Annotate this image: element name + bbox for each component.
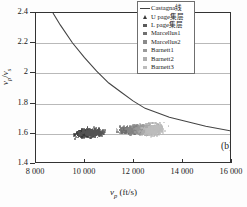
y-axis-tick [30, 72, 35, 73]
x-axis-label: 8 000 [13, 167, 57, 176]
x-axis-tick [133, 159, 134, 163]
legend-item[interactable]: Castagna线 [140, 4, 191, 12]
legend-item[interactable]: U page集层 [140, 12, 191, 20]
legend-item[interactable]: Marcellus1 [140, 29, 191, 37]
y-axis-label: 2.2 [0, 37, 28, 45]
x-axis-label: 16 000 [209, 167, 247, 176]
legend-label: Barnett1 [151, 46, 174, 54]
y-axis-label: 2.4 [0, 7, 28, 15]
x-axis-title-unit: (ft/s) [117, 187, 137, 197]
x-axis-tick [231, 159, 232, 163]
y-axis-label: 1.4 [0, 158, 28, 166]
y-axis-tick [30, 12, 35, 13]
legend-marker-square-icon [140, 21, 151, 29]
y-axis-tick [30, 103, 35, 104]
legend-item[interactable]: L page集层 [140, 21, 191, 29]
x-axis-label: 10 000 [62, 167, 106, 176]
y-axis-tick [30, 163, 35, 164]
legend-label: Barnett3 [151, 63, 174, 71]
legend-marker-square-icon [140, 46, 151, 54]
legend-label: Marcellus2 [151, 38, 181, 46]
legend-marker-square-icon [140, 63, 151, 71]
legend-label: U page集层 [151, 13, 184, 21]
plot-area: (b) [35, 12, 231, 163]
x-axis-tick [84, 159, 85, 163]
castagna-curve [36, 13, 230, 162]
y-axis-tick [30, 42, 35, 43]
y-axis-label: 1.6 [0, 128, 28, 136]
x-axis-label: 12 000 [111, 167, 155, 176]
legend-label: Castagna线 [151, 4, 182, 12]
legend-item[interactable]: Marcellus2 [140, 38, 191, 46]
x-axis-label: 14 000 [160, 167, 204, 176]
y-axis-title: vp/vs [0, 71, 12, 85]
legend-label: Barnett2 [151, 55, 174, 63]
legend-item[interactable]: Barnett2 [140, 54, 191, 62]
y-axis-tick [30, 133, 35, 134]
panel-label: (b) [221, 141, 231, 151]
y-axis-title-text: vp/vs [0, 69, 10, 85]
figure-panel-b: (b) 1.41.61.822.22.4 8 00010 00012 00014… [0, 0, 247, 207]
legend-marker-square-icon [140, 29, 151, 37]
legend-box: Castagna线U page集层L page集层Marcellus1Marce… [137, 1, 195, 74]
legend-marker-line-icon [140, 4, 151, 12]
legend-marker-square-icon [140, 55, 151, 63]
legend-marker-triangle-icon [140, 13, 151, 21]
legend-label: Marcellus1 [151, 29, 181, 37]
legend-item[interactable]: Barnett3 [140, 63, 191, 71]
x-axis-tick [182, 159, 183, 163]
y-axis-label: 1.8 [0, 98, 28, 106]
legend-item[interactable]: Barnett1 [140, 46, 191, 54]
x-axis-title: vp (ft/s) [0, 187, 247, 199]
legend-marker-square-icon [140, 38, 151, 46]
legend-label: L page集层 [151, 21, 183, 29]
